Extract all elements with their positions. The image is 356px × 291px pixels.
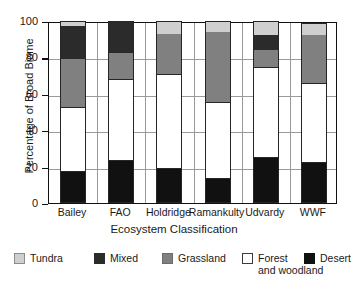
legend-swatch-grassland: [162, 253, 173, 264]
bar-outline: [205, 21, 231, 203]
legend-item-grassland[interactable]: Grassland: [162, 252, 226, 264]
legend-label: Grassland: [178, 252, 226, 264]
gridline-horizontal: [49, 59, 336, 60]
legend-swatch-mixed: [94, 253, 105, 264]
legend-item-desert[interactable]: Desert: [304, 252, 351, 264]
gridline-vertical: [145, 23, 146, 203]
y-axis-tick-label: 60: [0, 89, 38, 100]
bar-holdridge: [156, 23, 182, 203]
x-axis-tick-label-wwf: WWF: [268, 206, 356, 218]
legend-item-tundra[interactable]: Tundra: [14, 252, 63, 264]
legend-label: Desert: [320, 252, 351, 264]
bar-fao: [108, 23, 134, 203]
plot-area: [48, 22, 337, 204]
bar-wwf: [301, 23, 327, 203]
bar-ramankulty: [205, 23, 231, 203]
legend-swatch-tundra: [14, 253, 25, 264]
legend-swatch-forest: [242, 253, 253, 264]
gridline-horizontal: [49, 132, 336, 133]
gridline-vertical: [194, 23, 195, 203]
bar-outline: [108, 21, 134, 203]
bar-udvardy: [253, 23, 279, 203]
gridline-vertical: [97, 23, 98, 203]
y-axis-tick-label: 100: [0, 16, 38, 27]
chart-legend: TundraMixedGrasslandForestand woodlandDe…: [14, 252, 334, 290]
bar-outline: [156, 21, 182, 203]
gridline-vertical: [290, 23, 291, 203]
y-axis-tick-label: 40: [0, 125, 38, 136]
y-axis-tick-label: 80: [0, 52, 38, 63]
y-axis-tick-label: 20: [0, 162, 38, 173]
legend-item-mixed[interactable]: Mixed: [94, 252, 138, 264]
gridline-vertical: [242, 23, 243, 203]
x-axis-title: Ecosystem Classification: [0, 223, 348, 235]
bar-outline: [301, 23, 327, 203]
legend-label: Tundra: [30, 252, 63, 264]
bar-outline: [60, 21, 86, 203]
legend-label-line2: and woodland: [258, 264, 323, 276]
gridline-horizontal: [49, 169, 336, 170]
gridline-horizontal: [49, 96, 336, 97]
legend-swatch-desert: [304, 253, 315, 264]
bar-outline: [253, 21, 279, 203]
bar-bailey: [60, 23, 86, 203]
legend-label: Mixed: [110, 252, 138, 264]
